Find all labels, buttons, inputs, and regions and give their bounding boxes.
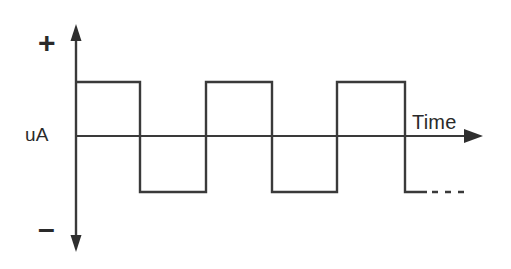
vertical-axis bbox=[71, 24, 82, 252]
horizontal-axis-arrowhead bbox=[464, 129, 483, 143]
negative-axis-label: – bbox=[38, 214, 55, 244]
time-axis-label: Time bbox=[412, 112, 457, 132]
waveform-figure: + – uA Time bbox=[0, 0, 511, 269]
vertical-axis-up-arrowhead bbox=[71, 24, 82, 41]
positive-axis-label: + bbox=[38, 28, 56, 58]
waveform-svg bbox=[0, 0, 511, 269]
vertical-axis-down-arrowhead bbox=[71, 235, 82, 252]
zero-level-label: uA bbox=[25, 125, 49, 144]
